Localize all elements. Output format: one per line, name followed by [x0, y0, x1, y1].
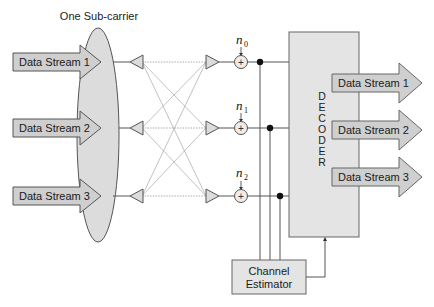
arrow-up-icon — [323, 237, 327, 241]
input-label-1: Data Stream 1 — [19, 56, 90, 68]
junction-dot-3 — [277, 193, 283, 199]
rx-antenna-icon-2 — [206, 121, 219, 135]
svg-text:R: R — [318, 156, 326, 168]
junction-dot-1 — [257, 59, 263, 65]
channel-cross-paths — [142, 62, 206, 196]
svg-text:+: + — [238, 57, 244, 68]
rx-antenna-icon-3 — [206, 189, 219, 203]
svg-text:+: + — [238, 123, 244, 134]
tx-antenna-icon-2 — [130, 121, 143, 135]
estimator-label-line2: Estimator — [246, 278, 293, 290]
svg-text:n: n — [236, 98, 243, 113]
tx-antenna-icon-3 — [130, 189, 143, 203]
output-label-2: Data Stream 2 — [338, 124, 409, 136]
svg-text:2: 2 — [244, 173, 248, 182]
estimator-taps — [260, 62, 280, 260]
junction-dot-2 — [267, 125, 273, 131]
svg-text:n: n — [236, 32, 243, 47]
rx-antenna-icon-1 — [206, 55, 219, 69]
adder-1: + — [235, 56, 248, 69]
estimator-feedback-arrow — [306, 237, 327, 277]
output-label-3: Data Stream 3 — [338, 171, 409, 183]
tx-antennas — [130, 55, 143, 203]
subcarrier-title: One Sub-carrier — [60, 10, 139, 22]
rx-adder-lines — [219, 62, 234, 196]
rx-antennas — [206, 55, 219, 203]
adder-3: + — [235, 190, 248, 203]
noise-n1: n 1 — [236, 98, 248, 122]
decoder-label: D E C O D E R — [318, 90, 326, 168]
svg-text:1: 1 — [244, 106, 248, 115]
tx-antenna-icon-1 — [130, 55, 143, 69]
input-label-2: Data Stream 2 — [19, 122, 90, 134]
input-label-3: Data Stream 3 — [19, 190, 90, 202]
noise-n0: n 0 — [236, 32, 248, 56]
mimo-ofdm-diagram: One Sub-carrier Data Stream 1 Data Strea… — [0, 0, 434, 307]
estimator-label-line1: Channel — [249, 265, 290, 277]
svg-text:0: 0 — [244, 40, 248, 49]
svg-text:n: n — [236, 165, 243, 180]
adder-2: + — [235, 122, 248, 135]
noise-n2: n 2 — [236, 165, 248, 190]
output-label-1: Data Stream 1 — [338, 77, 409, 89]
svg-text:+: + — [238, 191, 244, 202]
